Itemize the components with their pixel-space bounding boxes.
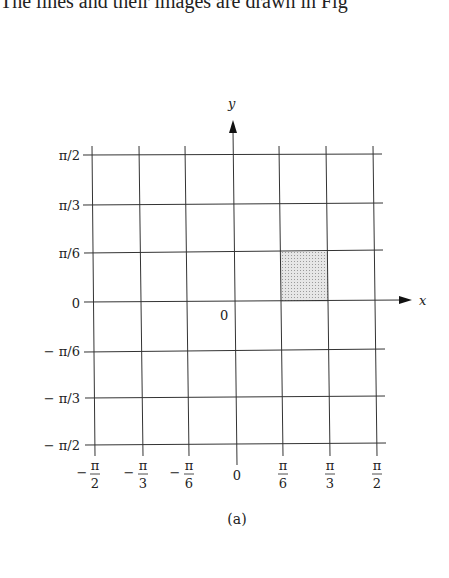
- svg-text:− π/2: − π/2: [44, 438, 80, 453]
- svg-text:6: 6: [279, 476, 287, 491]
- svg-text:π: π: [185, 458, 194, 473]
- svg-text:π/6: π/6: [59, 246, 80, 261]
- svg-text:3: 3: [326, 476, 334, 491]
- svg-text:π: π: [279, 458, 288, 473]
- horizontal-gridlines: [83, 154, 386, 445]
- x-axis-arrow-icon: [399, 296, 412, 304]
- shaded-region: [281, 252, 328, 302]
- svg-text:π/2: π/2: [59, 148, 80, 163]
- svg-text:6: 6: [185, 476, 193, 491]
- svg-text:π: π: [139, 458, 148, 473]
- svg-text:π: π: [326, 458, 335, 473]
- x-tick-labels: − π 2 − π 3 − π 6 0 π 6 π 3 π 2: [77, 458, 382, 491]
- y-axis-arrow-icon: [229, 120, 237, 133]
- figure-caption: (a): [227, 511, 246, 527]
- y-axis: [233, 130, 237, 465]
- svg-text:π: π: [91, 458, 100, 473]
- origin-label: 0: [220, 308, 228, 323]
- x-axis-label: x: [419, 293, 427, 308]
- y-tick-labels: π/2 π/3 π/6 0 − π/6 − π/3 − π/2: [44, 148, 80, 453]
- svg-text:3: 3: [139, 476, 147, 491]
- svg-text:2: 2: [373, 476, 381, 491]
- svg-text:0: 0: [72, 296, 80, 311]
- svg-text:−: −: [170, 465, 181, 480]
- coordinate-grid-figure: y x 0 π/2 π/3 π/6 0 − π/6 − π/3 − π/2 − …: [0, 0, 449, 578]
- svg-text:− π/6: − π/6: [44, 344, 80, 359]
- y-axis-label: y: [227, 96, 236, 111]
- svg-text:π/3: π/3: [59, 198, 80, 213]
- svg-text:−: −: [124, 465, 135, 480]
- svg-text:π: π: [373, 458, 382, 473]
- svg-text:2: 2: [91, 476, 99, 491]
- svg-text:0: 0: [233, 468, 241, 483]
- x-axis: [84, 300, 402, 302]
- svg-text:− π/3: − π/3: [44, 391, 80, 406]
- svg-text:−: −: [77, 465, 88, 480]
